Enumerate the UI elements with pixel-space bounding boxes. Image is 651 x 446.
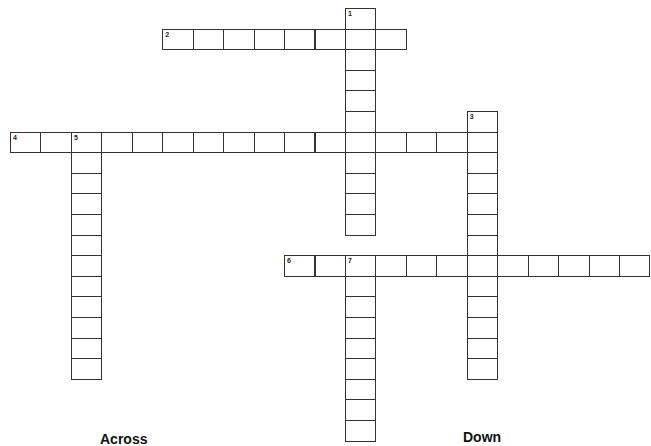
crossword-cell[interactable] [345, 379, 376, 401]
crossword-cell[interactable] [467, 152, 498, 174]
crossword-cell[interactable]: 7 [345, 255, 376, 277]
crossword-cell[interactable] [345, 420, 376, 442]
crossword-cell[interactable] [375, 255, 406, 277]
crossword-cell[interactable] [254, 29, 285, 51]
crossword-cell[interactable] [71, 338, 102, 360]
crossword-cell[interactable]: 3 [467, 111, 498, 133]
crossword-cell[interactable] [71, 255, 102, 277]
clue-number: 7 [348, 257, 352, 264]
crossword-cell[interactable] [345, 132, 376, 154]
down-heading: Down [463, 429, 501, 445]
crossword-cell[interactable] [71, 235, 102, 257]
clue-number: 6 [287, 257, 291, 264]
crossword-cell[interactable] [71, 276, 102, 298]
crossword-cell[interactable] [467, 338, 498, 360]
crossword-cell[interactable] [467, 214, 498, 236]
crossword-cell[interactable] [467, 193, 498, 215]
crossword-cell[interactable]: 5 [71, 132, 102, 154]
crossword-cell[interactable] [345, 111, 376, 133]
crossword-cell[interactable] [71, 152, 102, 174]
crossword-cell[interactable] [254, 132, 285, 154]
crossword-cell[interactable] [558, 255, 589, 277]
crossword-cell[interactable] [284, 29, 315, 51]
crossword-cell[interactable] [71, 358, 102, 380]
crossword-cell[interactable] [315, 255, 346, 277]
crossword-cell[interactable] [71, 317, 102, 339]
crossword-cell[interactable]: 6 [284, 255, 315, 277]
crossword-cell[interactable] [436, 255, 467, 277]
crossword-cell[interactable] [345, 358, 376, 380]
crossword-cell[interactable] [71, 173, 102, 195]
crossword-cell[interactable] [467, 296, 498, 318]
clue-number: 2 [165, 31, 169, 38]
crossword-cell[interactable] [345, 338, 376, 360]
crossword-cell[interactable] [375, 29, 406, 51]
crossword-cell[interactable] [284, 132, 315, 154]
crossword-cell[interactable] [345, 29, 376, 51]
crossword-cell[interactable] [345, 296, 376, 318]
crossword-cell[interactable] [375, 132, 406, 154]
crossword-cell[interactable] [467, 132, 498, 154]
across-heading: Across [100, 431, 147, 446]
clue-number: 3 [470, 113, 474, 120]
crossword-cell[interactable] [406, 132, 437, 154]
crossword-cell[interactable] [467, 317, 498, 339]
crossword-cell[interactable] [345, 90, 376, 112]
crossword-cell[interactable] [345, 173, 376, 195]
crossword-cell[interactable]: 1 [345, 8, 376, 30]
crossword-cell[interactable] [193, 132, 224, 154]
crossword-cell[interactable] [223, 132, 254, 154]
clue-number: 4 [13, 134, 17, 141]
crossword-cell[interactable] [345, 49, 376, 71]
crossword-cell[interactable] [467, 255, 498, 277]
crossword-cell[interactable] [619, 255, 650, 277]
crossword-cell[interactable] [315, 29, 346, 51]
crossword-cell[interactable]: 4 [10, 132, 41, 154]
crossword-cell[interactable] [132, 132, 163, 154]
crossword-cell[interactable] [101, 132, 132, 154]
crossword-cell[interactable] [345, 193, 376, 215]
crossword-cell[interactable] [345, 70, 376, 92]
crossword-cell[interactable] [589, 255, 620, 277]
crossword-cell[interactable] [71, 214, 102, 236]
crossword-cell[interactable] [345, 214, 376, 236]
crossword-cell[interactable] [467, 235, 498, 257]
crossword-cell[interactable] [436, 132, 467, 154]
crossword-cell[interactable] [467, 173, 498, 195]
crossword-cell[interactable] [162, 132, 193, 154]
crossword-cell[interactable] [497, 255, 528, 277]
crossword-cell[interactable] [467, 276, 498, 298]
crossword-cell[interactable] [315, 132, 346, 154]
crossword-cell[interactable] [345, 399, 376, 421]
crossword-cell[interactable] [345, 317, 376, 339]
crossword-cell[interactable] [71, 193, 102, 215]
crossword-cell[interactable] [345, 276, 376, 298]
crossword-cell[interactable] [40, 132, 71, 154]
crossword-cell[interactable] [345, 152, 376, 174]
crossword-cell[interactable] [223, 29, 254, 51]
crossword-cell[interactable] [528, 255, 559, 277]
crossword-cell[interactable]: 2 [162, 29, 193, 51]
clue-number: 1 [348, 10, 352, 17]
clue-number: 5 [74, 134, 78, 141]
crossword-cell[interactable] [467, 358, 498, 380]
crossword-cell[interactable] [71, 296, 102, 318]
crossword-cell[interactable] [193, 29, 224, 51]
crossword-grid: 1234567 [0, 0, 651, 446]
crossword-cell[interactable] [406, 255, 437, 277]
